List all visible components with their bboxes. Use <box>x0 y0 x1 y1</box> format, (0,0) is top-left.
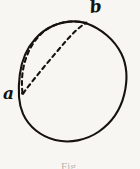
circle-outline <box>19 21 127 141</box>
figure-canvas <box>0 0 140 169</box>
geometry-figure: a b Fig. <box>0 0 140 169</box>
vertex-a-dot <box>21 92 24 95</box>
label-point-a: a <box>3 85 14 102</box>
dashed-arc-a-to-b <box>22 21 86 92</box>
dashed-chord-a-to-b <box>23 23 86 93</box>
vertex-b-dot <box>85 22 88 25</box>
label-point-b: b <box>89 0 103 16</box>
figure-caption: Fig. <box>0 161 140 169</box>
